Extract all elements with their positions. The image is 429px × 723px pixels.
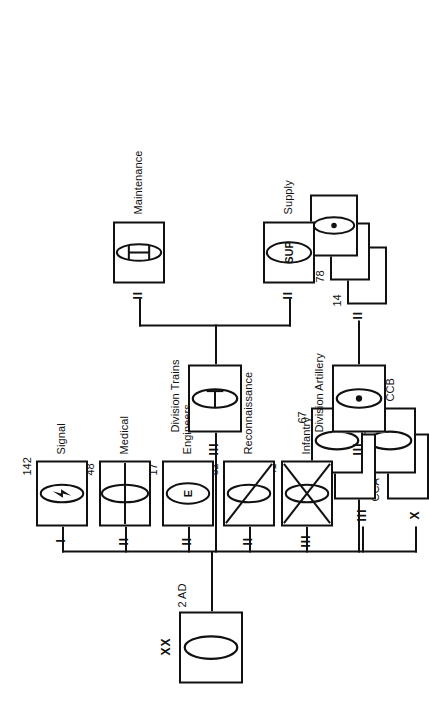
artillery-out-line [358,320,360,364]
designation-78: 78 [314,270,326,282]
supply-inner-text: SUP [265,223,313,281]
signal-bolt-icon [38,462,86,524]
echelon-82-recon: II [242,536,254,545]
echelon-41-infantry: III [300,534,312,547]
echelon-2ad: XX [160,637,172,655]
label-maintenance: Maintenance [132,150,144,214]
unit-division-trains[interactable] [188,364,242,432]
trains-stub-supply [289,298,291,326]
echelon-48-medical: II [118,536,130,545]
maintenance-ibar-icon [115,223,163,281]
armor-oval-icon [181,613,241,681]
label-division-artillery: Division Artillery [313,353,325,432]
mech-infantry-icon [283,462,331,524]
trunk-extension-lower [362,550,417,552]
echelon-142-signal: I [55,538,67,542]
label-division-trains: Division Trains [169,359,181,432]
unit-92-artillery-front[interactable] [310,194,358,256]
armored-cavalry-icon [225,462,273,524]
artillery-dot-icon [312,196,356,254]
medical-icon [101,462,149,524]
branch-stub-combat-commands [415,526,417,552]
trains-out-line [215,324,217,364]
designation-14: 14 [331,294,343,306]
label-signal: Signal [55,423,67,454]
trains-t-icon [190,366,240,430]
echelon-17-engineers: II [181,536,193,545]
label-supply: Supply [282,180,294,214]
unit-48-medical[interactable] [99,460,151,526]
echelon-combat-commands: X [409,510,421,519]
unit-17-engineers[interactable]: E [162,460,214,526]
echelon-artillery-battalions: II [352,310,364,319]
main-trunk-line [62,550,362,552]
unit-supply[interactable]: SUP [263,221,315,283]
echelon-armor-regiments: III [356,508,368,521]
unit-41-infantry[interactable] [281,460,333,526]
trains-stub-maintenance [139,298,141,326]
unit-division-artillery[interactable] [332,364,386,432]
unit-142-signal[interactable] [36,460,88,526]
designation-2ad: 2 AD [176,583,188,607]
echelon-maintenance: II [132,290,144,299]
echelon-division-artillery: III [352,442,364,455]
label-reconnaissance: Reconnaissance [242,371,254,454]
echelon-supply: II [282,290,294,299]
root-stem-line [211,551,213,611]
trains-child-bus [139,324,291,326]
echelon-division-trains: III [208,442,220,455]
artillery-dot-icon [334,366,384,430]
unit-2ad[interactable] [179,611,243,683]
label-medical: Medical [118,415,130,454]
engineer-letter: E [164,462,212,524]
unit-maintenance[interactable] [113,221,165,283]
branch-stub-armor-regiments [362,526,364,552]
unit-82-reconnaissance[interactable] [223,460,275,526]
designation-142: 142 [21,457,33,475]
label-infantry: Infantry [300,417,312,455]
